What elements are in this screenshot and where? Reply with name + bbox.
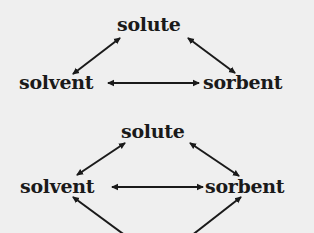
arrow-solute-solvent — [77, 143, 125, 175]
diagram-canvas: solute solvent sorbent solute solvent so… — [0, 0, 314, 233]
node-sorbent: sorbent — [205, 177, 284, 196]
arrow-solute-sorbent — [190, 143, 239, 176]
node-solvent: solvent — [19, 73, 93, 92]
arrow-solute-solvent — [73, 38, 120, 74]
node-sorbent: sorbent — [203, 73, 282, 92]
arrow-sorbent-down — [191, 197, 241, 233]
arrow-solute-sorbent — [188, 38, 235, 73]
node-solvent: solvent — [20, 177, 94, 196]
node-solute: solute — [117, 15, 180, 34]
arrow-solvent-down — [73, 197, 126, 233]
node-solute: solute — [121, 122, 184, 141]
